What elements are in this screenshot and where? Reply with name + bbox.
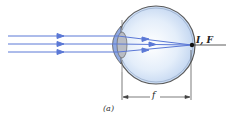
- eye-diagram: [0, 0, 229, 135]
- focal-point-marker: [190, 43, 194, 47]
- focal-length-label: f: [152, 90, 155, 100]
- focus-label: I, F: [196, 35, 213, 45]
- caption: (a): [103, 104, 114, 113]
